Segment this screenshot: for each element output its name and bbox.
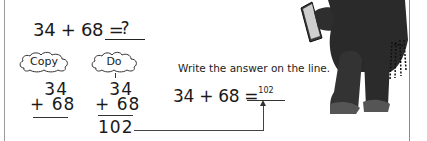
cloud-stem bbox=[115, 73, 116, 78]
arrow-connector-vertical bbox=[263, 103, 264, 131]
copy-label: Copy bbox=[18, 55, 70, 68]
answer-equation: 34 + 68 = bbox=[173, 86, 258, 106]
copy-cloud: Copy bbox=[18, 51, 70, 73]
do-sum-line bbox=[98, 115, 133, 116]
problem-answer-blank: ? bbox=[105, 19, 145, 40]
left-margin-rule bbox=[4, 0, 5, 141]
do-addend-bottom: + 68 bbox=[95, 96, 133, 112]
copy-addend-bottom: + 68 bbox=[30, 96, 68, 112]
answer-line: 102 bbox=[247, 85, 285, 101]
arrow-up-icon bbox=[260, 100, 266, 106]
do-label: Do bbox=[90, 55, 138, 68]
arrow-connector-horizontal bbox=[134, 130, 264, 131]
do-cloud: Do bbox=[90, 51, 138, 73]
do-sum-answer: 102 bbox=[98, 119, 133, 135]
teddy-bear-with-book-icon bbox=[300, 0, 410, 115]
copy-sum-line bbox=[33, 117, 68, 118]
